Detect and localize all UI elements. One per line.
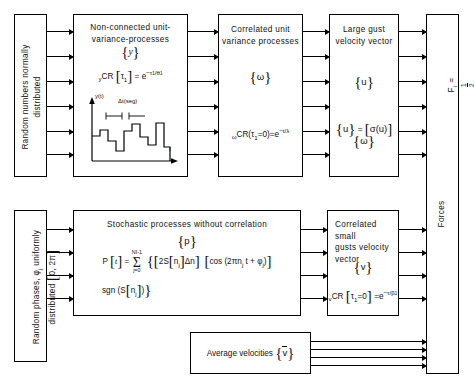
connector-arrow: [301, 298, 327, 299]
block-stochastic-formula-line1: P [t] =NI-1Σj=0 {[2S[nj]Δn] [cos (2πnj t…: [74, 256, 300, 270]
connector-arrow: [399, 275, 426, 276]
connector-arrow: [188, 106, 218, 107]
block-large-gust-symbol: {u}: [330, 76, 398, 88]
connector-arrow: [303, 56, 329, 57]
block-forces-formula: Fi = 12 CDρAi (Vi + ui + vi)2Xo: [433, 0, 453, 180]
connector-arrow: [311, 365, 426, 366]
block-non-connected-title: Non-connected unit- variance-processes: [74, 22, 187, 45]
block-stochastic-symbol: {p}: [74, 235, 300, 247]
connector-arrow: [303, 31, 329, 32]
connector-arrow: [311, 349, 426, 350]
connector-arrow: [188, 154, 218, 155]
connector-arrow: [303, 106, 329, 107]
connector-arrow: [301, 229, 327, 230]
block-random-numbers: Random numbers normally distributed: [14, 14, 47, 177]
block-correlated-unit-formula: ωCR(τ1=0)=e−t/λ: [219, 125, 302, 142]
connector-arrow: [47, 131, 73, 132]
connector-arrow: [311, 341, 426, 342]
block-non-connected-symbol: {y}: [74, 47, 187, 58]
connector-arrow: [47, 106, 73, 107]
connector-arrow: [311, 357, 426, 358]
block-stochastic-processes: Stochastic processes without correlation…: [73, 210, 301, 316]
connector-arrow: [301, 252, 327, 253]
chart-xlabel: t: [169, 146, 171, 152]
block-random-phases-label: Random phases, φj uniformlydistributed […: [19, 211, 43, 363]
block-large-gust-velocity: Large gust velocity vector {u} {u} = [σ(…: [329, 14, 399, 177]
connector-arrow: [188, 56, 218, 57]
chart-annotation: Δt(seg): [118, 98, 137, 104]
block-non-connected-formula: yCR [τ1] = e−τ1/θ1: [74, 67, 187, 84]
connector-arrow: [188, 81, 218, 82]
block-non-connected-processes: Non-connected unit- variance-processes {…: [73, 14, 188, 177]
block-stochastic-formula-line2: sgn (S[nj])}: [74, 285, 300, 299]
block-small-gusts-velocity: Correlated small gusts velocity vector {…: [327, 210, 399, 316]
connector-arrow: [188, 131, 218, 132]
sum-lower-limit: j=0: [133, 265, 140, 276]
connector-arrow: [399, 229, 426, 230]
sum-upper-limit: NI-1: [132, 247, 142, 258]
block-correlated-unit-symbol: {ω}: [219, 71, 302, 83]
block-forces-label: Forces: [436, 184, 450, 244]
block-correlated-unit-variance: Correlated unit variance processes {ω} ω…: [218, 14, 303, 177]
connector-arrow: [399, 298, 426, 299]
block-random-phases: Random phases, φj uniformlydistributed […: [14, 210, 47, 362]
block-correlated-unit-title: Correlated unit variance processes: [219, 24, 302, 47]
block-stochastic-title: Stochastic processes without correlation: [74, 219, 300, 231]
connector-arrow: [399, 106, 426, 107]
connector-arrow: [188, 31, 218, 32]
block-average-velocities-label: Average velocities {v}: [191, 347, 310, 359]
connector-arrow: [399, 31, 426, 32]
block-large-gust-title: Large gust velocity vector: [330, 24, 398, 47]
connector-arrow: [303, 131, 329, 132]
connector-arrow: [47, 31, 73, 32]
block-random-numbers-label: Random numbers normally distributed: [20, 16, 44, 179]
step-function-chart: y(t) Δt(seg) t: [82, 89, 182, 173]
connector-arrow: [303, 81, 329, 82]
connector-arrow: [47, 154, 73, 155]
block-average-velocities: Average velocities {v}: [190, 332, 311, 374]
block-small-gusts-formula: vCR [τ1=0] =e−τ/β1: [328, 287, 398, 304]
connector-arrow: [47, 81, 73, 82]
block-forces: Fi = 12 CDρAi (Vi + ui + vi)2Xo Forces: [426, 14, 459, 374]
block-small-gusts-symbol: {v}: [328, 261, 398, 273]
block-small-gusts-title: Correlated small gusts velocity vector: [328, 219, 398, 265]
connector-arrow: [47, 56, 73, 57]
connector-arrow: [399, 252, 426, 253]
connector-arrow: [303, 154, 329, 155]
average-velocities-text: Average velocities: [207, 349, 273, 358]
chart-ylabel: y(t): [95, 93, 104, 99]
connector-arrow: [399, 56, 426, 57]
connector-arrow: [399, 131, 426, 132]
connector-arrow: [47, 229, 73, 230]
connector-arrow: [399, 81, 426, 82]
connector-arrow: [301, 275, 327, 276]
block-diagram: Random numbers normally distributed Non-…: [0, 0, 474, 390]
block-large-gust-formula: {u} = [σ(u)] {ω}: [330, 123, 398, 147]
connector-arrow: [399, 154, 426, 155]
